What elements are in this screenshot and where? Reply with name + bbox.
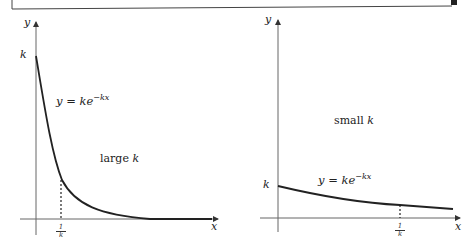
left-caption: large k — [100, 152, 139, 165]
right-k-tick-label: k — [263, 178, 270, 191]
left-k-tick-label: k — [20, 48, 27, 61]
right-caption-k: k — [367, 114, 374, 127]
left-equation-main: y = ke — [56, 94, 93, 108]
right-curve — [278, 186, 453, 209]
right-equation-main: y = ke — [318, 173, 355, 187]
right-one-over-k-label: 1 k — [395, 223, 405, 238]
left-one-over-k-label: 1 k — [56, 224, 66, 239]
right-caption-word: small — [334, 114, 367, 127]
left-x-axis-label: x — [211, 220, 217, 233]
left-caption-k: k — [132, 152, 139, 165]
left-equation: y = ke−kx — [56, 93, 109, 108]
left-curve — [36, 56, 212, 219]
left-equation-exponent: −kx — [93, 93, 109, 102]
right-caption: small k — [334, 114, 374, 127]
right-equation: y = ke−kx — [318, 172, 371, 187]
right-y-axis-label: y — [265, 13, 271, 26]
right-x-axis-label: x — [455, 220, 461, 233]
left-y-axis-label: y — [24, 16, 30, 29]
left-chart — [20, 22, 218, 235]
left-caption-word: large — [100, 152, 132, 165]
diagram-canvas — [0, 0, 475, 251]
top-frame — [12, 0, 457, 9]
right-equation-exponent: −kx — [355, 172, 371, 181]
